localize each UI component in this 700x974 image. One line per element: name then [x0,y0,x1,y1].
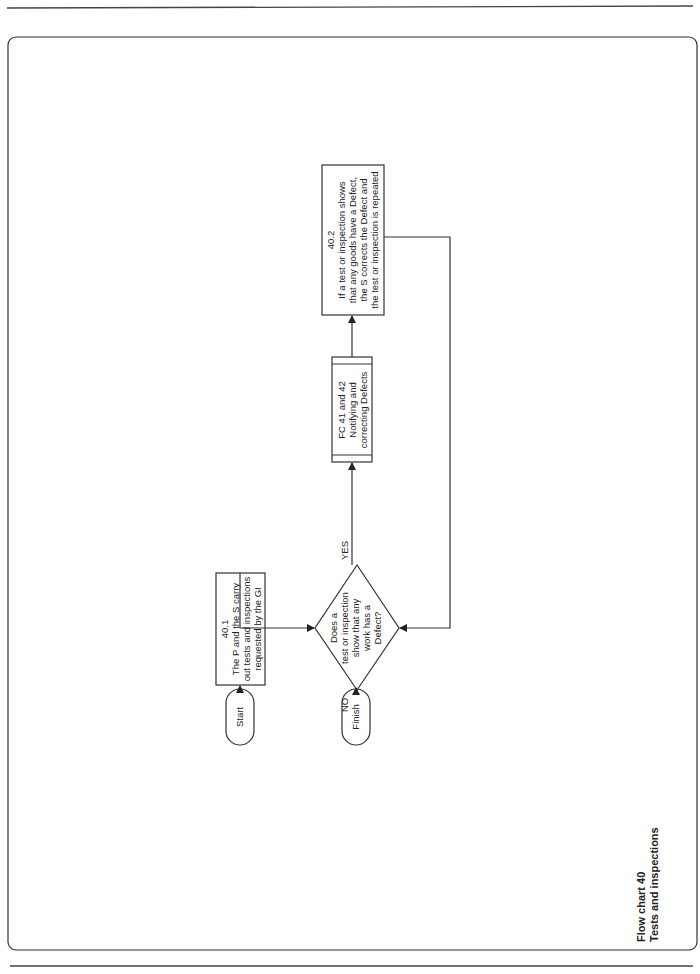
start-label: Start [234,707,245,727]
start-node[interactable]: Start [226,689,254,745]
subprocess-line-3: correcting Defects [358,371,369,448]
process-40-2-line-5: the test or inspection is repeated [369,171,380,308]
process-40-2-line-1: 40.2 [325,231,336,250]
process-40-1-line-2: The P and the S carry [230,583,241,675]
decision-line-5: Defect? [372,612,383,645]
top-page-rule [7,6,693,8]
subprocess-line-1: FC 41 and 42 [336,381,347,439]
process-40-1-line-3: out tests and inspections [241,576,252,681]
subprocess-fc41-42-node[interactable]: FC 41 and 42 Notifying and correcting De… [332,357,372,462]
edge-label-yes: YES [339,541,350,560]
process-40-2-line-4: the S corrects the Defect and [358,178,369,301]
edge-label-no: NO [339,698,350,712]
process-40-1-line-1: 40.1 [219,620,230,639]
flowchart-page: Flow chart 40 Tests and inspections Star… [0,0,700,974]
decision-node[interactable]: Does a test or inspection show that any … [315,565,399,690]
subprocess-line-2: Notifying and [347,382,358,437]
caption-subtitle: Tests and inspections [648,827,660,942]
caption-title: Flow chart 40 [635,872,647,942]
process-40-2-line-3: that any goods have a Defect, [347,177,358,303]
edge-40-2-loop-to-decision [384,237,450,628]
process-40-2-line-2: If a test or inspection shows [336,181,347,298]
rotated-flowchart: Flow chart 40 Tests and inspections Star… [216,165,660,942]
decision-line-2: test or inspection [339,592,350,664]
finish-label: Finish [350,704,361,729]
finish-node[interactable]: Finish [342,689,370,745]
decision-line-4: work has a [361,604,372,652]
decision-line-3: show that any [350,598,361,657]
process-40-1-line-4: requested by the GI [252,587,263,670]
process-40-2-node[interactable]: 40.2 If a test or inspection shows that … [322,165,384,315]
decision-line-1: Does a [328,612,339,643]
